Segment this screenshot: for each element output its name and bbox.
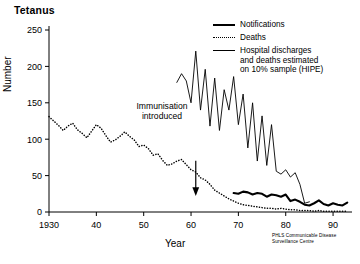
tetanus-chart: Tetanus Number Year 05010015020025019304… xyxy=(0,0,360,264)
svg-text:1930: 1930 xyxy=(39,220,59,230)
svg-text:0: 0 xyxy=(37,207,42,217)
svg-text:60: 60 xyxy=(186,220,196,230)
svg-text:50: 50 xyxy=(139,220,149,230)
legend-label: Hospital discharges and deaths estimated… xyxy=(240,46,323,75)
series-line xyxy=(234,192,348,206)
legend-swatch-dotted-icon xyxy=(213,33,235,42)
legend-label: Deaths xyxy=(240,33,266,43)
legend-swatch-solid-thin-icon xyxy=(213,46,235,55)
annotation-arrow xyxy=(192,161,199,196)
svg-text:70: 70 xyxy=(233,220,243,230)
legend-swatch-solid-thick-icon xyxy=(213,20,235,29)
svg-text:50: 50 xyxy=(32,171,42,181)
legend-item-notifications: Notifications xyxy=(213,20,323,30)
series-line xyxy=(49,117,347,212)
source-credit: PHLS Communicable Disease Surveillance C… xyxy=(272,233,336,244)
annotation-immunisation: Immunisation introduced xyxy=(131,101,193,121)
legend-label: Notifications xyxy=(240,20,285,30)
svg-text:250: 250 xyxy=(27,25,42,35)
svg-text:80: 80 xyxy=(281,220,291,230)
legend-item-hipe: Hospital discharges and deaths estimated… xyxy=(213,46,323,75)
svg-text:150: 150 xyxy=(27,98,42,108)
svg-text:90: 90 xyxy=(328,220,338,230)
svg-text:100: 100 xyxy=(27,135,42,145)
svg-text:200: 200 xyxy=(27,62,42,72)
svg-text:40: 40 xyxy=(91,220,101,230)
legend-item-deaths: Deaths xyxy=(213,33,323,43)
chart-legend: Notifications Deaths Hospital discharges… xyxy=(213,20,323,78)
